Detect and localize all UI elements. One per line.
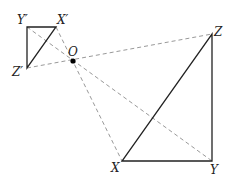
ray-x xyxy=(56,27,122,161)
label-y: Y xyxy=(210,163,219,177)
center-point xyxy=(70,58,75,63)
label-o: O xyxy=(68,45,78,59)
dilation-diagram: Y′ X′ Z′ O Z X Y xyxy=(0,0,232,179)
ray-z xyxy=(27,34,212,68)
label-x-prime: X′ xyxy=(56,13,69,27)
label-z-prime: Z′ xyxy=(11,65,23,79)
label-x: X xyxy=(110,161,120,175)
label-z: Z xyxy=(213,25,223,39)
label-y-prime: Y′ xyxy=(17,13,28,27)
triangle-image xyxy=(27,27,56,68)
ray-y xyxy=(27,27,212,161)
triangle-original xyxy=(122,34,212,161)
